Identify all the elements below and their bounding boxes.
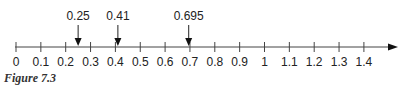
marker-label: 0.25 [66, 9, 90, 23]
tick-label: 0.9 [231, 55, 248, 69]
axis-arrow-icon [388, 44, 398, 51]
marker-arrow-icon [185, 38, 192, 46]
tick-label: 1.2 [306, 55, 323, 69]
marker-label: 0.695 [174, 9, 204, 23]
figure-caption: Figure 7.3 [4, 71, 56, 86]
tick-label: 0.8 [206, 55, 223, 69]
marker-label: 0.41 [106, 9, 130, 23]
tick-label: 0.7 [182, 55, 199, 69]
tick-label: 1.3 [331, 55, 348, 69]
tick-label: 0 [13, 55, 20, 69]
tick-label: 1 [261, 55, 268, 69]
tick-label: 1.1 [281, 55, 298, 69]
marker-arrow-icon [75, 38, 82, 46]
tick-label: 0.2 [57, 55, 74, 69]
tick-label: 0.5 [132, 55, 149, 69]
number-line: 00.10.20.30.40.50.60.70.80.911.11.21.31.… [0, 0, 407, 93]
tick-label: 1.4 [356, 55, 373, 69]
tick-label: 0.3 [82, 55, 99, 69]
tick-label: 0.4 [107, 55, 124, 69]
tick-label: 0.6 [157, 55, 174, 69]
tick-label: 0.1 [33, 55, 50, 69]
